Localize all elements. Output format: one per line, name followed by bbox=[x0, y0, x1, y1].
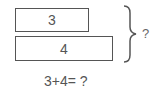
bar-label: 4 bbox=[60, 41, 68, 57]
equation: 3+4= ? bbox=[44, 73, 88, 89]
bar-label: 3 bbox=[48, 12, 56, 28]
bar-4: 4 bbox=[15, 36, 113, 61]
curly-brace-icon bbox=[122, 5, 138, 63]
bar-3: 3 bbox=[15, 8, 89, 32]
total-unknown: ? bbox=[142, 26, 149, 41]
